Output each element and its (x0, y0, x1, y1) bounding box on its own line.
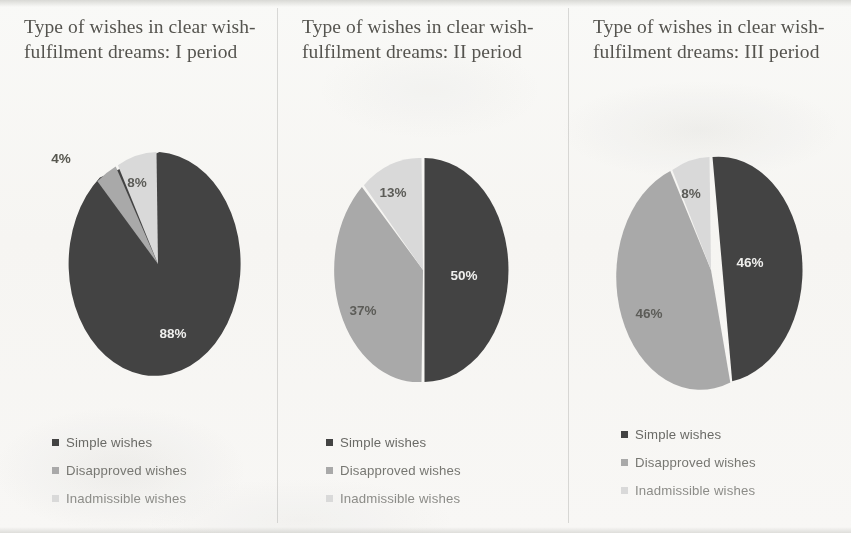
legend-iii-period: Simple wishes Disapproved wishes Inadmis… (621, 420, 756, 504)
legend-i-period: Simple wishes Disapproved wishes Inadmis… (52, 428, 187, 512)
legend-item-inadmissible-wishes: Inadmissible wishes (52, 484, 187, 512)
legend-swatch-inadmissible-wishes (326, 495, 333, 502)
legend-swatch-disapproved-wishes (326, 467, 333, 474)
legend-item-disapproved-wishes: Disapproved wishes (52, 456, 187, 484)
legend-item-disapproved-wishes: Disapproved wishes (621, 448, 756, 476)
pie-label-simple-wishes: 88% (159, 326, 186, 341)
chart-title-i-period: Type of wishes in clear wish-fulfilment … (24, 14, 260, 64)
pie-chart-iii-period: 46% 46% 8% (591, 150, 835, 392)
pie-svg-ii-period: 50% 37% 13% (298, 152, 548, 392)
legend-label-inadmissible-wishes: Inadmissible wishes (66, 491, 186, 506)
pie-label-inadmissible-wishes: 8% (681, 186, 701, 201)
pie-svg-i-period: 88% 4% 8% (8, 148, 270, 384)
pie-label-inadmissible-wishes: 8% (127, 175, 147, 190)
pie-chart-ii-period: 50% 37% 13% (298, 152, 548, 392)
legend-label-disapproved-wishes: Disapproved wishes (66, 463, 187, 478)
legend-item-inadmissible-wishes: Inadmissible wishes (326, 484, 461, 512)
legend-swatch-inadmissible-wishes (52, 495, 59, 502)
legend-swatch-disapproved-wishes (52, 467, 59, 474)
legend-swatch-disapproved-wishes (621, 459, 628, 466)
pie-label-disapproved-wishes: 46% (635, 306, 662, 321)
legend-swatch-simple-wishes (621, 431, 628, 438)
legend-label-inadmissible-wishes: Inadmissible wishes (340, 491, 460, 506)
chart-panel-iii-period: Type of wishes in clear wish-fulfilment … (569, 0, 851, 533)
pie-label-simple-wishes: 50% (450, 268, 477, 283)
pie-slices-ii-period (334, 158, 508, 382)
chart-panel-i-period: Type of wishes in clear wish-fulfilment … (0, 0, 278, 533)
pie-slices-i-period (69, 152, 241, 376)
legend-label-inadmissible-wishes: Inadmissible wishes (635, 483, 755, 498)
chart-title-ii-period: Type of wishes in clear wish-fulfilment … (302, 14, 556, 64)
legend-label-simple-wishes: Simple wishes (635, 427, 721, 442)
legend-swatch-inadmissible-wishes (621, 487, 628, 494)
legend-label-disapproved-wishes: Disapproved wishes (635, 455, 756, 470)
legend-item-inadmissible-wishes: Inadmissible wishes (621, 476, 756, 504)
pie-chart-i-period: 88% 4% 8% (8, 148, 270, 384)
legend-label-simple-wishes: Simple wishes (66, 435, 152, 450)
legend-item-simple-wishes: Simple wishes (621, 420, 756, 448)
legend-item-simple-wishes: Simple wishes (52, 428, 187, 456)
legend-item-disapproved-wishes: Disapproved wishes (326, 456, 461, 484)
pie-slices-iii-period (616, 157, 802, 390)
chart-panel-ii-period: Type of wishes in clear wish-fulfilment … (278, 0, 569, 533)
legend-swatch-simple-wishes (326, 439, 333, 446)
pie-label-disapproved-wishes: 37% (349, 303, 376, 318)
legend-swatch-simple-wishes (52, 439, 59, 446)
figure-page: Type of wishes in clear wish-fulfilment … (0, 0, 851, 533)
legend-label-disapproved-wishes: Disapproved wishes (340, 463, 461, 478)
legend-label-simple-wishes: Simple wishes (340, 435, 426, 450)
legend-ii-period: Simple wishes Disapproved wishes Inadmis… (326, 428, 461, 512)
legend-item-simple-wishes: Simple wishes (326, 428, 461, 456)
pie-label-simple-wishes: 46% (736, 255, 763, 270)
pie-label-inadmissible-wishes: 13% (379, 185, 406, 200)
pie-svg-iii-period: 46% 46% 8% (591, 150, 835, 392)
pie-slice-disapproved-wishes (616, 171, 730, 390)
pie-label-disapproved-wishes: 4% (51, 151, 71, 166)
chart-title-iii-period: Type of wishes in clear wish-fulfilment … (593, 14, 847, 64)
